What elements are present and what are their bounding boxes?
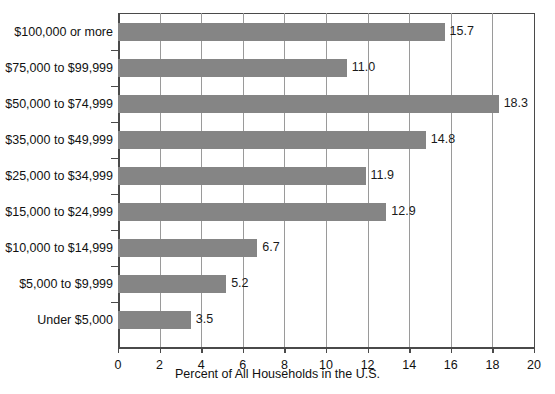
x-tick-2 (160, 347, 161, 353)
bar-value-label: 6.7 (262, 238, 279, 256)
x-tick-10 (326, 347, 327, 353)
category-label: $10,000 to $14,999 (1, 239, 113, 257)
y-tick (111, 158, 118, 159)
x-tick-4 (201, 347, 202, 353)
bar-value-label: 11.9 (371, 166, 394, 184)
category-label-column: $100,000 or more$75,000 to $99,999$50,00… (0, 13, 113, 348)
category-label: Under $5,000 (1, 311, 113, 329)
bar (118, 131, 426, 149)
x-tick-20 (534, 347, 535, 353)
category-label: $35,000 to $49,999 (1, 131, 113, 149)
bar-value-label: 12.9 (391, 202, 415, 220)
bar-row: 15.7 (118, 14, 535, 50)
x-tick-8 (284, 347, 285, 353)
bar (118, 203, 386, 221)
category-label: $15,000 to $24,999 (1, 203, 113, 221)
bar-value-label: 5.2 (231, 274, 248, 292)
bar-row: 18.3 (118, 86, 535, 122)
bar-row: 12.9 (118, 194, 535, 230)
bar-row: 11.9 (118, 158, 535, 194)
category-label: $50,000 to $74,999 (1, 95, 113, 113)
bar-row: 14.8 (118, 122, 535, 158)
plot-area: 0246810121416182015.711.018.314.811.912.… (118, 13, 535, 348)
bar (118, 95, 499, 113)
category-label: $100,000 or more (1, 23, 113, 41)
bar (118, 311, 191, 329)
x-axis-title: Percent of All Households in the U.S. (0, 367, 555, 381)
category-label: $75,000 to $99,999 (1, 59, 113, 77)
category-label: $25,000 to $34,999 (1, 167, 113, 185)
bar (118, 23, 445, 41)
bar (118, 239, 257, 257)
bar-value-label: 14.8 (431, 130, 455, 148)
y-tick (111, 122, 118, 123)
bar-value-label: 18.3 (504, 94, 528, 112)
y-tick (111, 230, 118, 231)
bar (118, 275, 226, 293)
bar (118, 59, 347, 77)
y-tick (111, 50, 118, 51)
x-tick-0 (118, 347, 119, 353)
bar-row: 6.7 (118, 230, 535, 266)
bar-value-label: 3.5 (196, 310, 213, 328)
bar-value-label: 11.0 (352, 58, 375, 76)
x-tick-18 (492, 347, 493, 353)
category-label: $5,000 to $9,999 (1, 275, 113, 293)
household-income-bar-chart: $100,000 or more$75,000 to $99,999$50,00… (0, 0, 555, 394)
bar-row: 5.2 (118, 266, 535, 302)
bar-row: 3.5 (118, 302, 535, 338)
x-tick-14 (409, 347, 410, 353)
x-tick-16 (451, 347, 452, 353)
bar (118, 167, 366, 185)
x-tick-6 (243, 347, 244, 353)
x-tick-12 (368, 347, 369, 353)
y-tick (111, 194, 118, 195)
bar-row: 11.0 (118, 50, 535, 86)
y-tick (111, 266, 118, 267)
bar-value-label: 15.7 (450, 22, 474, 40)
y-tick (111, 302, 118, 303)
y-tick (111, 86, 118, 87)
